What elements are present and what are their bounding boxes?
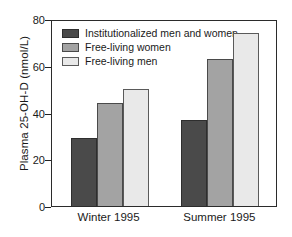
y-axis-tick-label: 80: [19, 15, 45, 26]
y-axis-tick-mark: [45, 114, 51, 115]
y-axis-tick-label: 60: [19, 61, 45, 72]
y-axis-tick-mark: [45, 67, 51, 68]
bar[interactable]: [207, 59, 233, 206]
y-axis-tick-mark: [45, 20, 51, 21]
bar-group: [71, 21, 149, 206]
x-axis-category-label: Winter 1995: [49, 211, 169, 224]
bar[interactable]: [181, 120, 207, 206]
bar[interactable]: [233, 33, 259, 206]
y-axis-tick-labels: 020406080: [18, 0, 45, 237]
plot-area: Institutionalized men and womenFree-livi…: [51, 20, 277, 207]
bar[interactable]: [97, 103, 123, 206]
y-axis-tick-mark: [45, 207, 51, 208]
y-axis-tick-label: 0: [19, 202, 45, 213]
y-axis-tick-label: 20: [19, 155, 45, 166]
y-axis-tick-mark: [45, 160, 51, 161]
x-axis-category-label: Summer 1995: [159, 211, 279, 224]
bar-chart-figure: Plasma 25-OH-D (nmol/L) 020406080 Instit…: [0, 0, 292, 237]
bar[interactable]: [123, 89, 149, 206]
bar[interactable]: [71, 138, 97, 206]
bar-group: [181, 21, 259, 206]
y-axis-tick-label: 40: [19, 108, 45, 119]
